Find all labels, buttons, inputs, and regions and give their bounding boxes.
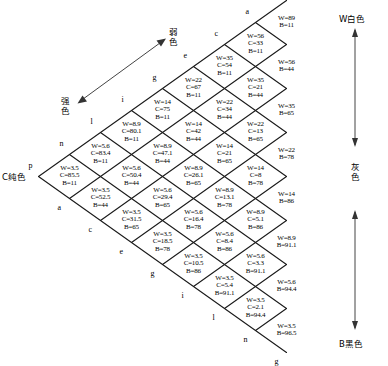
lattice-cell-r4c7: W=14C=8B=78 (235, 165, 277, 187)
edge-letter-upper-a-7: a (246, 7, 250, 16)
edge-letter-lower-i-4: i (182, 291, 184, 300)
lattice-cell-r6c6: W=3.5C=5.4B=91.1 (204, 275, 246, 297)
lattice-cell-r3c7: W=22C=13B=65 (235, 121, 277, 143)
lattice-cell-r1c2: W=5.6C=83.4B=11 (80, 143, 122, 165)
edge-letter-lower-a-0: a (58, 203, 62, 212)
lattice-cell-r4c6: W=8.9C=13.1B=78 (204, 187, 246, 209)
edge-letter-upper-p-0: p (29, 161, 33, 170)
lattice-cell-r3c5: W=8.9C=26.1B=65 (173, 165, 215, 187)
lattice-cell-r5c5: W=3.5C=10.5B=86 (173, 253, 215, 275)
edge-letter-upper-n-1: n (60, 139, 64, 148)
lattice-cell-r3c8: W=35B=65 (266, 103, 308, 118)
lattice-cell-r2c8: W=56B=44 (266, 59, 308, 74)
edge-letter-upper-g-4: g (153, 73, 157, 82)
edge-letter-upper-e-5: e (184, 51, 188, 60)
lattice-cell-r1c7: W=56C=33B=11 (235, 33, 277, 55)
lattice-cell-r7c7: W=3.5C=2.1B=94.4 (235, 297, 277, 319)
edge-letter-lower-c-1: c (89, 225, 93, 234)
lattice-cell-r5c8: W=14B=86 (266, 191, 308, 206)
cell-black-value: B=86 (266, 198, 308, 205)
cell-black-value: B=65 (266, 110, 308, 117)
axis-label-white: W白色 (339, 12, 365, 24)
lattice-cell-r2c5: W=14C=42B=44 (173, 121, 215, 143)
lattice-cell-r3c6: W=14C=21B=65 (204, 143, 246, 165)
lattice-cell-r2c7: W=35C=21B=44 (235, 77, 277, 99)
cell-black-value: B=44 (266, 66, 308, 73)
lattice-cell-r7c8: W=5.6B=94.4 (266, 279, 308, 294)
lattice-cell-r1c3: W=8.9C=80.1B=11 (111, 121, 153, 143)
axis-arrow-diagonal (79, 40, 164, 102)
cell-black-value: B=96.5 (266, 330, 308, 337)
edge-letter-lower-l-5: l (213, 313, 215, 322)
cell-black-value: B=94.4 (235, 312, 277, 319)
lattice-cell-r1c4: W=14C=75B=11 (142, 99, 184, 121)
lattice-cell-r4c4: W=3.5C=18.5B=78 (142, 231, 184, 253)
cell-black-value: B=91.1 (266, 242, 308, 249)
apex-label-pure-color: C纯色 (2, 170, 26, 182)
edge-letter-lower-g-7: g (275, 357, 279, 366)
edge-letter-upper-l-2: l (91, 117, 93, 126)
axis-label-black: B黑色 (339, 337, 363, 349)
lattice-cell-r2c3: W=5.6C=50.4B=44 (111, 165, 153, 187)
edge-letter-lower-n-6: n (244, 335, 248, 344)
edge-letter-lower-e-2: e (120, 247, 124, 256)
lattice-cell-r8c8: W=3.5B=96.5 (266, 323, 308, 338)
lattice-cell-r2c6: W=22C=34B=44 (204, 99, 246, 121)
lattice-cell-r2c4: W=8.9C=47.1B=44 (142, 143, 184, 165)
axis-label-weak-color: 弱色 (167, 28, 179, 47)
lattice-cell-r1c6: W=35C=54B=11 (204, 55, 246, 77)
lattice-cell-r1c8: W=89B=11 (266, 15, 308, 30)
lattice-cell-r4c8: W=22B=78 (266, 147, 308, 162)
cell-black-value: B=11 (266, 22, 308, 29)
lattice-cell-r5c7: W=8.9C=5.1B=86 (235, 209, 277, 231)
axis-label-gray: 灰色 (349, 163, 361, 182)
lattice-cell-r4c5: W=5.6C=16.4B=78 (173, 209, 215, 231)
lattice-cell-r6c7: W=5.6C=3.3B=91.1 (235, 253, 277, 275)
lattice-cell-r2c2: W=3.5C=52.5B=44 (80, 187, 122, 209)
edge-letter-upper-c-6: c (215, 29, 219, 38)
lattice-cell-r5c6: W=5.6C=8.4B=86 (204, 231, 246, 253)
edge-letter-upper-i-3: i (122, 95, 124, 104)
lattice-cell-r1c5: W=22C=67B=11 (173, 77, 215, 99)
lattice-cell-r3c3: W=3.5C=31.5B=65 (111, 209, 153, 231)
cell-black-value: B=94.4 (266, 286, 308, 293)
axis-label-strong-color: 强色 (59, 97, 71, 116)
edge-letter-lower-g-3: g (151, 269, 155, 278)
cell-black-value: B=78 (266, 154, 308, 161)
lattice-cell-r6c8: W=8.9B=91.1 (266, 235, 308, 250)
lattice-cell-r1c1: W=3.5C=85.5B=11 (49, 165, 91, 187)
lattice-cell-r3c4: W=5.6C=29.4B=65 (142, 187, 184, 209)
